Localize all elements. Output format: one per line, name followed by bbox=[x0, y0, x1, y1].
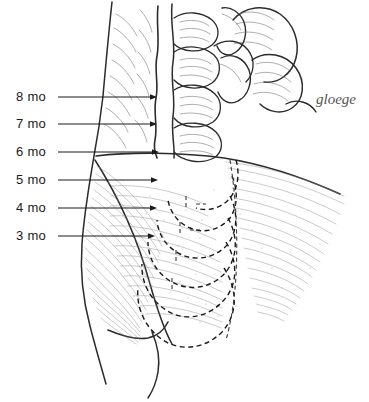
label-8mo: 8 mo bbox=[16, 89, 46, 104]
label-4mo: 4 mo bbox=[16, 200, 46, 215]
fundal-height-illustration: 8 mo 7 mo 6 mo 5 mo 4 mo 3 mo gloege bbox=[0, 0, 369, 402]
gravid-abdomen-group bbox=[85, 153, 344, 398]
linea-alba-contour bbox=[154, 6, 158, 158]
left-flank-contour bbox=[81, 2, 112, 384]
label-7mo: 7 mo bbox=[16, 116, 46, 131]
leader-arrow-5mo bbox=[151, 177, 158, 183]
abdomen-hatching-left bbox=[85, 166, 164, 344]
fundus-tick-marks bbox=[172, 196, 206, 290]
torso-hatching bbox=[104, 10, 291, 155]
rectus-right-segment-1 bbox=[217, 8, 246, 55]
upper-right-mass-4 bbox=[214, 41, 253, 82]
month-labels-group: 8 mo 7 mo 6 mo 5 mo 4 mo 3 mo bbox=[16, 89, 46, 243]
torso-upper-group bbox=[81, 2, 316, 384]
rectus-right-segment-2 bbox=[218, 56, 250, 103]
label-5mo: 5 mo bbox=[16, 172, 46, 187]
rectus-column-edge bbox=[172, 4, 175, 158]
label-6mo: 6 mo bbox=[16, 144, 46, 159]
costal-margin bbox=[96, 153, 340, 194]
upper-right-mass-3 bbox=[286, 101, 316, 112]
abdomen-hatching-right bbox=[226, 162, 344, 321]
illustration-canvas: 8 mo 7 mo 6 mo 5 mo 4 mo 3 mo gloege bbox=[0, 0, 369, 402]
artist-signature: gloege bbox=[316, 91, 356, 107]
leader-arrow-3mo bbox=[148, 233, 155, 239]
thigh-contour bbox=[148, 332, 159, 398]
rectus-segment-1 bbox=[174, 13, 218, 51]
leader-lines-group bbox=[58, 94, 159, 239]
label-3mo: 3 mo bbox=[16, 228, 46, 243]
fundus-contour-3mo bbox=[138, 268, 235, 347]
leader-arrow-4mo bbox=[150, 205, 157, 211]
